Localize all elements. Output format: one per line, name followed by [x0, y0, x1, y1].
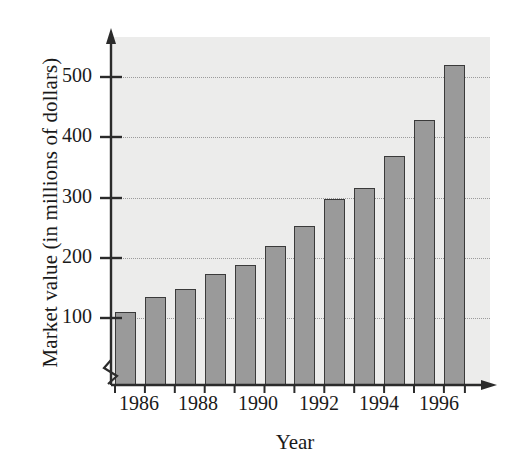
xtick-label-1994: 1994 — [347, 392, 411, 415]
xtick-label-1986: 1986 — [107, 392, 171, 415]
xtick-label-1988: 1988 — [166, 392, 230, 415]
xtick-label-1990: 1990 — [226, 392, 290, 415]
ytick-label-100: 100 — [32, 305, 92, 328]
ytick-label-200: 200 — [32, 245, 92, 268]
xtick-label-1992: 1992 — [287, 392, 351, 415]
ytick-label-300: 300 — [32, 185, 92, 208]
xtick-label-1996: 1996 — [407, 392, 471, 415]
bar-chart-figure: 500 400 300 200 100 1986 1988 1990 1992 … — [0, 0, 518, 467]
ytick-label-500: 500 — [32, 64, 92, 87]
ytick-label-400: 400 — [32, 124, 92, 147]
x-axis-title: Year — [120, 430, 470, 455]
